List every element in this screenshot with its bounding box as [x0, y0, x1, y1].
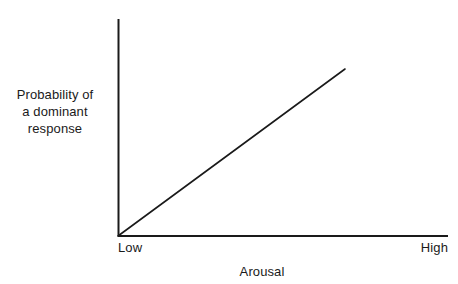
- chart-figure: Probability of a dominant response Low H…: [0, 0, 458, 284]
- x-axis-tick-label-low: Low: [118, 240, 142, 255]
- x-axis-tick-label-high: High: [348, 240, 448, 255]
- data-line-dominant-response: [118, 69, 345, 236]
- x-axis-title: Arousal: [182, 264, 342, 279]
- y-axis-label: Probability of a dominant response: [0, 86, 110, 137]
